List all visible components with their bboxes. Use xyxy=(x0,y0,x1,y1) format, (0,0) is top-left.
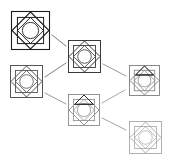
edge-link xyxy=(103,64,126,76)
graph-node[interactable] xyxy=(12,12,50,50)
edge-link xyxy=(52,35,66,46)
graph-node[interactable] xyxy=(69,95,100,126)
node-layer xyxy=(11,12,162,154)
node-core-circle xyxy=(20,75,34,89)
edge-link xyxy=(45,63,66,77)
graph-node[interactable] xyxy=(11,66,43,98)
edge-link xyxy=(102,118,126,130)
edge-layer xyxy=(45,35,126,130)
edge-link xyxy=(45,93,66,104)
node-core-circle xyxy=(78,50,92,64)
diagram-svg xyxy=(0,0,170,160)
graph-node[interactable] xyxy=(130,66,160,96)
diagram-canvas xyxy=(0,0,170,160)
edge-link xyxy=(102,90,125,103)
node-core-circle xyxy=(138,74,151,87)
node-core-circle xyxy=(139,131,153,145)
node-core-circle xyxy=(22,22,38,38)
graph-node[interactable] xyxy=(130,122,162,154)
graph-node[interactable] xyxy=(69,41,101,73)
node-core-circle xyxy=(77,103,90,116)
